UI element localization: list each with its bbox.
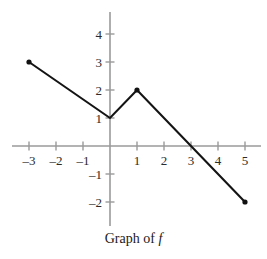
x-tick-label-4: 4 <box>213 154 223 167</box>
x-tick-label--3: –3 <box>21 154 37 167</box>
y-tick-label-2: 2 <box>92 84 102 97</box>
x-tick-label-3: 3 <box>186 154 196 167</box>
y-tick-label-4: 4 <box>92 28 102 41</box>
figure-caption: Graph of f <box>0 232 267 246</box>
y-tick-label-1: 1 <box>92 112 102 125</box>
data-point-1-2 <box>134 87 139 92</box>
y-tick-label--2: –2 <box>85 196 102 209</box>
figure-graph-of-f: –3 –2 –1 1 2 3 4 5 4 3 2 1 –1 –2 Graph o… <box>0 0 267 259</box>
caption-text: Graph of <box>105 231 155 246</box>
function-curve-f <box>29 62 245 202</box>
data-point--3-3 <box>26 59 31 64</box>
x-tick-label-5: 5 <box>240 154 250 167</box>
tick-marks-group <box>29 34 245 202</box>
data-point-5--2 <box>242 199 247 204</box>
x-tick-label--2: –2 <box>48 154 64 167</box>
coordinate-plot <box>0 0 267 259</box>
x-tick-label-2: 2 <box>159 154 169 167</box>
x-tick-label--1: –1 <box>75 154 91 167</box>
y-tick-label-3: 3 <box>92 56 102 69</box>
data-points-group <box>26 59 247 204</box>
y-tick-label--1: –1 <box>85 168 102 181</box>
axes-group <box>12 12 261 226</box>
x-tick-label-1: 1 <box>132 154 142 167</box>
caption-function-name: f <box>158 231 162 246</box>
